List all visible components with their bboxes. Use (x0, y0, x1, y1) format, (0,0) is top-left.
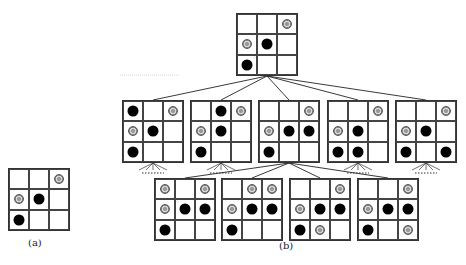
board-cell (416, 121, 436, 141)
board-cell (195, 220, 215, 240)
board-cell (222, 179, 242, 199)
black-stone-icon (363, 224, 374, 235)
board-cell (299, 121, 319, 141)
board-cell (242, 199, 262, 219)
board-cell (231, 142, 251, 162)
board-cell (378, 199, 398, 219)
board-cell (348, 142, 368, 162)
gray-stone-icon (403, 184, 413, 194)
board-cell (396, 101, 416, 121)
tree-edge (153, 76, 267, 100)
tree-edge (221, 163, 235, 170)
tree-edge (358, 163, 372, 170)
board-cell (191, 121, 211, 141)
board-cell (299, 101, 319, 121)
gray-stone-icon (373, 106, 383, 116)
tree-edge (214, 163, 221, 170)
board-cell (237, 34, 257, 54)
black-stone-icon (403, 204, 414, 215)
black-stone-icon (14, 214, 25, 225)
board-cell (378, 220, 398, 240)
board-cell (279, 121, 299, 141)
board-cell (49, 210, 69, 230)
gray-stone-icon (247, 184, 257, 194)
board-cell (398, 199, 418, 219)
board-cell (9, 169, 29, 189)
board-cell (328, 142, 348, 162)
board-child-2 (190, 100, 252, 163)
tree-edge (426, 163, 440, 170)
board-cell (299, 142, 319, 162)
board-cell (191, 142, 211, 162)
board-cell (259, 142, 279, 162)
board-root (236, 13, 298, 76)
board-cell (231, 101, 251, 121)
board-cell (398, 220, 418, 240)
black-stone-icon (148, 126, 159, 137)
board-cell (262, 199, 282, 219)
gray-stone-icon (242, 39, 252, 49)
board-cell (290, 220, 310, 240)
board-cell (257, 14, 277, 34)
black-stone-icon (353, 146, 364, 157)
board-cell (310, 199, 330, 219)
black-stone-icon (180, 204, 191, 215)
board-cell (416, 101, 436, 121)
board-cell (155, 199, 175, 219)
board-child-5 (395, 100, 457, 163)
board-cell (237, 55, 257, 75)
black-stone-icon (216, 106, 227, 117)
board-cell (310, 179, 330, 199)
board-cell (211, 121, 231, 141)
board-child-3 (258, 100, 320, 163)
board-cell (358, 220, 378, 240)
black-stone-icon (421, 126, 432, 137)
board-cell (290, 179, 310, 199)
board-cell (175, 179, 195, 199)
board-cell (277, 14, 297, 34)
tree-edge (139, 163, 153, 170)
gray-stone-icon (295, 204, 305, 214)
black-stone-icon (247, 204, 258, 215)
black-stone-icon (401, 146, 412, 157)
board-cell (330, 179, 350, 199)
black-stone-icon (441, 146, 452, 157)
board-cell (330, 199, 350, 219)
tree-edge (207, 163, 221, 170)
board-grandchild-4 (357, 178, 419, 241)
gray-stone-icon (304, 106, 314, 116)
board-cell (279, 142, 299, 162)
board-cell (163, 142, 183, 162)
gray-stone-icon (264, 126, 274, 136)
black-stone-icon (383, 204, 394, 215)
gray-stone-icon (333, 126, 343, 136)
tree-edge (153, 163, 160, 170)
black-stone-icon (242, 59, 253, 70)
board-cell (29, 189, 49, 209)
board-cell (262, 220, 282, 240)
board-grandchild-1 (154, 178, 216, 241)
board-child-1 (122, 100, 184, 163)
label-b: (b) (279, 240, 293, 251)
board-cell (257, 34, 277, 54)
tree-edge (221, 76, 267, 100)
gray-stone-icon (401, 126, 411, 136)
board-cell (9, 189, 29, 209)
black-stone-icon (335, 204, 346, 215)
board-cell (368, 142, 388, 162)
board-cell (49, 169, 69, 189)
board-a (8, 168, 70, 231)
black-stone-icon (216, 126, 227, 137)
board-cell (195, 179, 215, 199)
gray-stone-icon (315, 225, 325, 235)
gray-stone-icon (267, 184, 277, 194)
board-cell (368, 121, 388, 141)
board-cell (396, 121, 416, 141)
board-cell (277, 55, 297, 75)
black-stone-icon (196, 146, 207, 157)
black-stone-icon (160, 224, 171, 235)
black-stone-icon (333, 146, 344, 157)
board-cell (416, 142, 436, 162)
black-stone-icon (304, 126, 315, 137)
tree-edge (412, 163, 426, 170)
